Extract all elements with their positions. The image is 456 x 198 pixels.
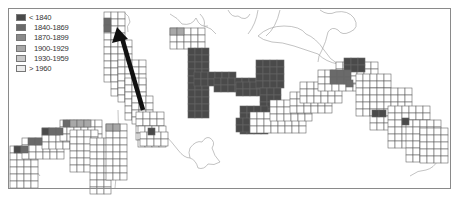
- legend-label: 1840-1869: [34, 23, 69, 32]
- legend-item: 1900-1929: [16, 43, 69, 53]
- legend-swatch: [16, 24, 26, 31]
- legend-label: 1870-1899: [34, 33, 69, 42]
- legend-item: 1870-1899: [16, 33, 69, 43]
- map-frame: [8, 8, 451, 189]
- legend-swatch: [16, 34, 26, 41]
- legend-label: 1930-1959: [34, 54, 69, 63]
- legend-swatch: [16, 14, 26, 21]
- legend: < 1840 1840-1869 1870-1899 1900-1929 193…: [16, 13, 69, 74]
- legend-label: < 1840: [29, 13, 51, 22]
- legend-label: 1900-1929: [34, 44, 69, 53]
- legend-swatch: [16, 65, 26, 72]
- legend-label: > 1960: [29, 64, 51, 73]
- legend-item: 1840-1869: [16, 23, 69, 33]
- legend-swatch: [16, 45, 26, 52]
- legend-swatch: [16, 55, 26, 62]
- legend-item: 1930-1959: [16, 53, 69, 63]
- legend-item: > 1960: [16, 63, 69, 73]
- legend-item: < 1840: [16, 13, 69, 23]
